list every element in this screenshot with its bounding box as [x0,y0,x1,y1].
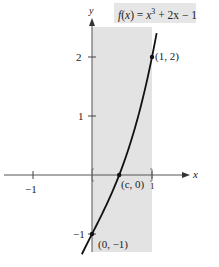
x-axis-label: x [193,169,198,180]
function-label: f(x) = x3 + 2x − 1 [118,7,197,21]
y-axis-label: y [89,6,93,16]
tick-label-y-1: 1 [78,111,84,122]
point-c-0 [117,173,121,177]
x-axis-arrow-icon [182,172,190,178]
y-axis-arrow-icon [89,18,95,26]
function-graph [0,0,219,267]
label-point-c-0: (c, 0) [121,179,144,190]
point-1-2 [150,55,154,59]
tick-label-y-2: 2 [76,52,82,63]
tick-label-x-1: 1 [150,182,155,191]
tick-label-x-neg1: −1 [25,184,37,195]
label-point-1-2: (1, 2) [155,51,179,62]
fn-rest: + 2x − 1 [155,9,197,21]
point-0-neg1 [90,232,94,236]
tick-label-y-neg1: −1 [73,229,85,240]
shaded-interval [92,27,152,252]
label-point-0-neg1: (0, −1) [98,239,128,250]
fn-equals: ) = [130,9,146,21]
